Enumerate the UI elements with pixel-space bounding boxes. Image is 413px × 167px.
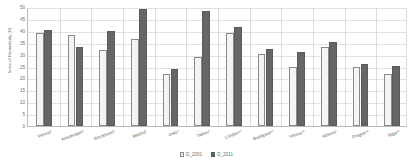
x-axis-label: Oslo* <box>146 129 180 145</box>
legend-swatch-icon <box>211 152 215 156</box>
bar-london-d_2001 <box>226 33 233 126</box>
x-axis-label: Tallinn* <box>177 129 211 145</box>
bar-group <box>376 8 408 126</box>
bar-chart: Index of Dissimilarity (D) 0510152025303… <box>0 0 413 167</box>
x-axis-label: Madrid* <box>114 129 148 145</box>
bar-oslo-d_2011 <box>171 69 178 126</box>
bar-group <box>313 8 345 126</box>
y-axis-tick-label: 30 <box>20 53 25 58</box>
chart-legend: D_2001D_2011 <box>0 152 413 157</box>
x-axis-label: Stockholm* <box>82 129 116 145</box>
y-axis-tick-label: 15 <box>20 89 25 94</box>
legend-label: D_2011 <box>217 152 233 157</box>
bar-group <box>250 8 282 126</box>
bar-athens-d_2011 <box>329 42 336 126</box>
bar-vilnius-d_2011 <box>297 52 304 126</box>
bar-group <box>186 8 218 126</box>
x-axis-label: Prague** <box>336 129 370 145</box>
y-axis-tick-label: 25 <box>20 65 25 70</box>
y-axis-title: Index of Dissimilarity (D) <box>7 1 12 101</box>
legend-entry[interactable]: D_2011 <box>211 152 233 157</box>
bar-group <box>345 8 377 126</box>
x-axis-label: Vilnius** <box>272 129 306 145</box>
bar-madrid-d_2001 <box>131 39 138 126</box>
x-axis-label: London** <box>209 129 243 145</box>
bar-group <box>281 8 313 126</box>
bar-riga-d_2001 <box>384 74 391 126</box>
bars-layer <box>28 8 407 126</box>
legend-swatch-icon <box>180 152 184 156</box>
x-axis-label: Budapest** <box>241 129 275 145</box>
bar-group <box>91 8 123 126</box>
y-axis-tick-label: 10 <box>20 101 25 106</box>
y-axis-tick-label: 35 <box>20 41 25 46</box>
x-axis-label: Amsterdam* <box>51 129 85 145</box>
bar-group <box>28 8 60 126</box>
y-axis-tick-label: 50 <box>20 6 25 11</box>
bar-london-d_2011 <box>234 27 241 126</box>
x-axis-label: Vienna* <box>19 129 53 145</box>
bar-prague-d_2001 <box>353 67 360 127</box>
bar-tallinn-d_2011 <box>202 11 209 126</box>
bar-group <box>155 8 187 126</box>
legend-label: D_2001 <box>186 152 202 157</box>
bar-vienna-d_2011 <box>44 30 51 126</box>
y-axis-tick-label: 40 <box>20 30 25 35</box>
y-axis-tick-label: 5 <box>22 113 25 118</box>
bar-athens-d_2001 <box>321 47 328 126</box>
x-axis-label: Riga** <box>367 129 401 145</box>
bar-madrid-d_2011 <box>139 9 146 126</box>
y-axis-tick-label: 0 <box>22 125 25 130</box>
x-axis-label: Athens* <box>304 129 338 145</box>
bar-vilnius-d_2001 <box>289 67 296 127</box>
bar-amsterdam-d_2001 <box>68 35 75 126</box>
bar-stockholm-d_2011 <box>107 31 114 126</box>
bar-group <box>60 8 92 126</box>
legend-entry[interactable]: D_2001 <box>180 152 202 157</box>
bar-budapest-d_2001 <box>258 54 265 126</box>
bar-stockholm-d_2001 <box>99 50 106 126</box>
y-axis-tick-label: 20 <box>20 77 25 82</box>
bar-amsterdam-d_2011 <box>76 47 83 126</box>
bar-riga-d_2011 <box>392 66 399 126</box>
bar-budapest-d_2011 <box>266 49 273 126</box>
y-axis-tick-label: 45 <box>20 18 25 23</box>
plot-area <box>27 8 407 127</box>
bar-vienna-d_2001 <box>36 33 43 126</box>
bar-group <box>123 8 155 126</box>
bar-group <box>218 8 250 126</box>
bar-prague-d_2011 <box>361 64 368 126</box>
x-axis-category-labels: Vienna*Amsterdam*Stockholm*Madrid*Oslo*T… <box>27 127 407 151</box>
y-axis-tick-labels: 05101520253035404550 <box>12 8 25 127</box>
bar-oslo-d_2001 <box>163 74 170 126</box>
bar-tallinn-d_2001 <box>194 57 201 126</box>
